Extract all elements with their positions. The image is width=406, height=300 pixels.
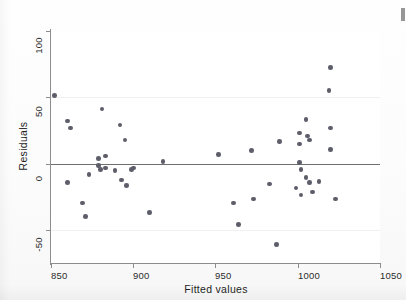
data-point [328,65,333,70]
scan-shadow-left [0,0,10,300]
y-axis-line [50,29,51,265]
y-tick-minus50 [46,230,50,231]
x-tick-900 [133,264,134,268]
data-point [333,197,338,202]
data-point [65,180,70,185]
y-tick-100 [46,31,50,32]
data-point [307,138,312,143]
data-point [251,197,256,202]
y-tick-label-0: 0 [33,166,44,192]
data-point [161,159,166,164]
y-axis-title: Residuals [17,101,29,191]
data-point [103,154,108,159]
y-tick-label-50: 50 [33,99,44,125]
data-point [231,201,236,206]
data-point [87,172,92,177]
data-point [304,175,309,180]
y-tick-label-minus50: -50 [33,232,44,258]
data-point [249,148,254,153]
data-point [327,88,332,93]
data-point [65,119,70,124]
data-point [131,166,136,171]
y-tick-label-100: 100 [33,33,44,59]
data-point [103,166,108,171]
x-tick-1050 [380,264,381,268]
data-point [216,152,221,157]
gridline-50 [51,97,380,98]
data-point [96,156,101,161]
data-point [98,167,103,172]
data-point [297,142,302,147]
data-point [80,201,85,206]
y-tick-50 [46,97,50,98]
data-point [328,147,333,152]
y-tick-0 [46,164,50,165]
data-point [236,222,241,227]
data-point [83,214,88,219]
data-point [277,139,282,144]
data-point [124,183,129,188]
gridline-minus50 [51,230,380,231]
data-point [307,180,312,185]
data-point [299,167,304,172]
x-tick-950 [215,264,216,268]
data-point [274,242,279,247]
page-edge-mark [401,8,405,21]
x-tick-1000 [298,264,299,268]
data-point [317,179,322,184]
data-point [147,210,152,215]
scan-shadow-bottom [0,284,406,300]
data-point [297,160,302,165]
data-point [68,126,73,131]
x-tick-850 [51,264,52,268]
residual-scatter-figure: 100 50 0 -50 850 900 950 1000 1050 Resid… [0,0,406,300]
data-point [52,93,57,98]
data-point [328,126,333,131]
